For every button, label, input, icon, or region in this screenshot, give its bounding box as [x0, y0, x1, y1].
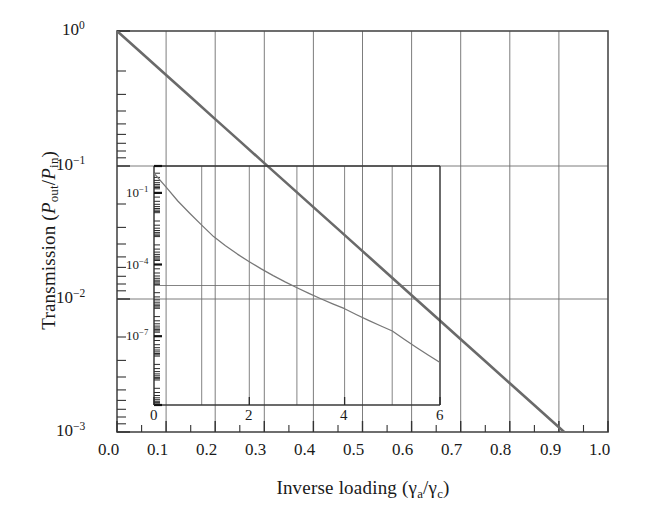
main-y-major-ticks — [117, 31, 130, 432]
chart-canvas — [0, 0, 650, 523]
main-y-minor-ticks — [117, 71, 126, 424]
inset-y-minor-ticks — [154, 173, 160, 404]
figure-container: 100 10−1 10−2 10−3 0.0 0.1 0.2 0.3 0.4 0… — [0, 0, 650, 523]
main-data-curve — [117, 31, 584, 449]
main-grid-vertical — [166, 31, 559, 432]
